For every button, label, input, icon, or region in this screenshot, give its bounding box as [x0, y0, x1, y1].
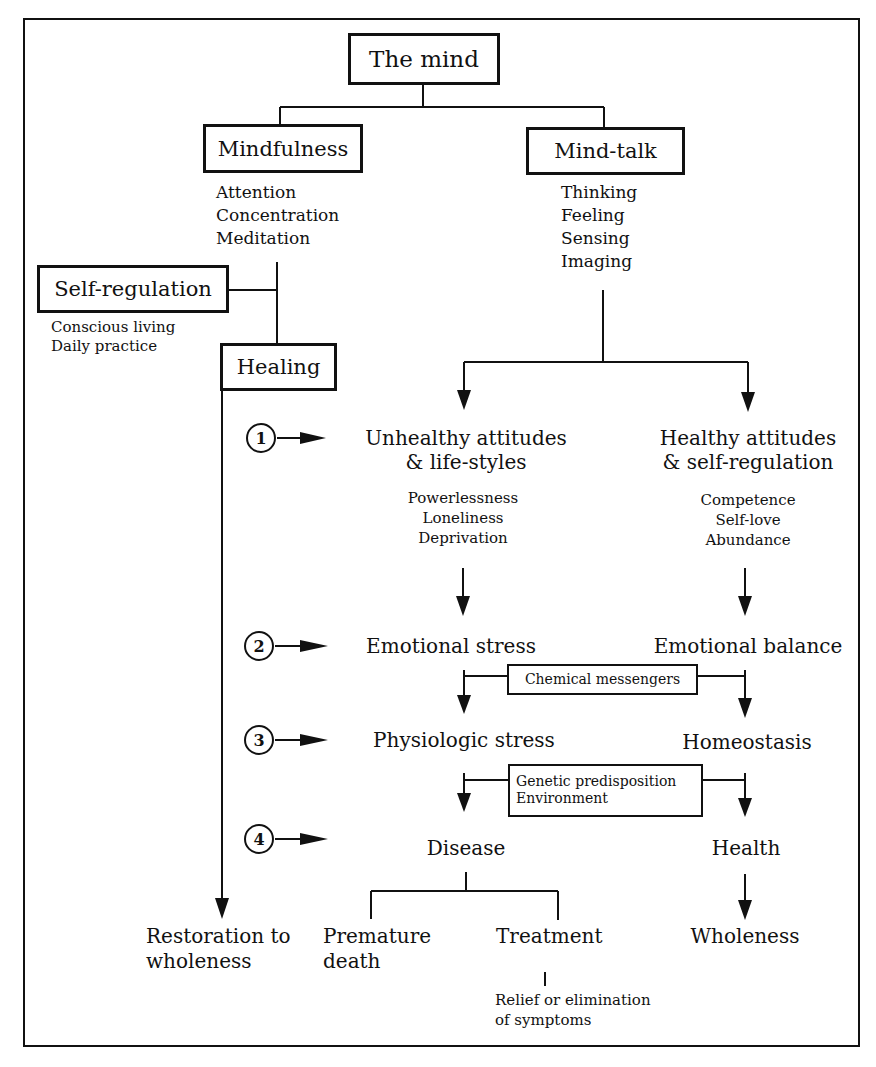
list-item: Concentration	[216, 204, 339, 227]
text-line: Genetic predisposition	[516, 773, 695, 790]
self-regulation-items: Conscious living Daily practice	[51, 318, 175, 356]
relief-of-symptoms: Relief or elimination of symptoms	[495, 990, 651, 1030]
node-mindfulness: Mindfulness	[203, 124, 363, 173]
physiologic-stress: Physiologic stress	[373, 728, 555, 752]
list-item: Abundance	[700, 530, 795, 550]
list-item: Imaging	[561, 250, 637, 273]
node-mind-talk: Mind-talk	[526, 127, 685, 175]
step-4-badge: 4	[244, 824, 274, 854]
text-line: of symptoms	[495, 1010, 651, 1030]
chemical-messengers-box: Chemical messengers	[507, 664, 698, 695]
mind-talk-items: Thinking Feeling Sensing Imaging	[561, 181, 637, 273]
node-label: Healing	[237, 355, 321, 379]
list-item: Competence	[700, 490, 795, 510]
genetic-environment-box: Genetic predisposition Environment	[508, 764, 703, 817]
list-item: Attention	[216, 181, 339, 204]
step-number: 1	[255, 429, 266, 448]
unhealthy-items: Powerlessness Loneliness Deprivation	[408, 488, 518, 548]
node-label: Self-regulation	[54, 277, 212, 301]
restoration-to-wholeness: Restoration to wholeness	[146, 924, 291, 974]
homeostasis: Homeostasis	[682, 730, 811, 754]
list-item: Thinking	[561, 181, 637, 204]
text-line: wholeness	[146, 949, 291, 974]
text-line: Environment	[516, 790, 695, 807]
list-item: Sensing	[561, 227, 637, 250]
node-the-mind: The mind	[348, 33, 500, 85]
text-line: death	[323, 949, 431, 974]
node-label: Mindfulness	[218, 137, 349, 161]
list-item: Deprivation	[408, 528, 518, 548]
node-label: Mind-talk	[554, 139, 657, 163]
text-line: Unhealthy attitudes	[365, 426, 567, 450]
health: Health	[712, 836, 781, 860]
text-line: Relief or elimination	[495, 990, 651, 1010]
step-2-badge: 2	[244, 631, 274, 661]
treatment: Treatment	[496, 924, 602, 948]
list-item: Loneliness	[408, 508, 518, 528]
emotional-balance: Emotional balance	[654, 634, 843, 658]
emotional-stress: Emotional stress	[366, 634, 536, 658]
list-item: Meditation	[216, 227, 339, 250]
node-healing: Healing	[220, 343, 337, 391]
text-line: & self-regulation	[660, 450, 836, 474]
list-item: Feeling	[561, 204, 637, 227]
healthy-attitudes: Healthy attitudes & self-regulation	[660, 426, 836, 474]
premature-death: Premature death	[323, 924, 431, 974]
node-self-regulation: Self-regulation	[37, 265, 229, 313]
node-label: The mind	[369, 46, 479, 72]
step-number: 4	[253, 830, 264, 849]
list-item: Conscious living	[51, 318, 175, 337]
step-3-badge: 3	[244, 725, 274, 755]
unhealthy-attitudes: Unhealthy attitudes & life-styles	[365, 426, 567, 474]
text-line: Healthy attitudes	[660, 426, 836, 450]
step-number: 3	[253, 731, 264, 750]
step-1-badge: 1	[246, 423, 276, 453]
wholeness: Wholeness	[691, 924, 800, 948]
step-number: 2	[253, 637, 264, 656]
list-item: Daily practice	[51, 337, 175, 356]
healthy-items: Competence Self-love Abundance	[700, 490, 795, 550]
text-line: Premature	[323, 924, 431, 949]
disease: Disease	[427, 836, 506, 860]
list-item: Self-love	[700, 510, 795, 530]
list-item: Powerlessness	[408, 488, 518, 508]
text-line: Restoration to	[146, 924, 291, 949]
text-line: & life-styles	[365, 450, 567, 474]
mindfulness-items: Attention Concentration Meditation	[216, 181, 339, 250]
